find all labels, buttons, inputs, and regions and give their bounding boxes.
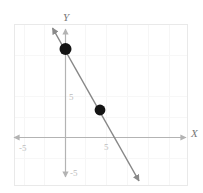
y-tick-label-five: 5 [69,92,74,102]
y-axis-label: Y [63,11,71,23]
x-tick-label-negative-five: -5 [19,143,27,153]
coordinate-plane-svg: Y X -5 5 5 -5 [0,0,203,193]
graph-figure: Y X -5 5 5 -5 [0,0,203,193]
data-point [95,105,106,116]
x-tick-label-five: 5 [104,142,109,152]
y-tick-label-negative-five: -5 [70,168,78,178]
data-point [60,43,72,55]
x-axis-label: X [190,127,199,139]
